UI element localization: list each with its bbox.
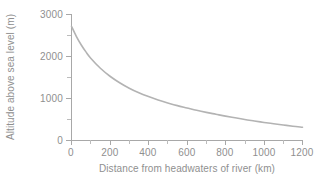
y-tick-label-2000: 2000 <box>40 51 63 62</box>
x-tick-label-1000: 1000 <box>252 147 275 158</box>
series-group <box>72 26 303 127</box>
x-tick-label-1200: 1200 <box>290 147 313 158</box>
x-tick-label-0: 0 <box>68 147 74 158</box>
y-tick-label-1000: 1000 <box>40 93 63 104</box>
river-profile-chart: 0 1000 2000 3000 0 200 400 600 800 1000 … <box>0 0 323 179</box>
x-tick-label-200: 200 <box>101 147 119 158</box>
y-tick-label-3000: 3000 <box>40 9 63 20</box>
river-profile-line <box>72 26 303 127</box>
x-axis-tick-labels: 0 200 400 600 800 1000 1200 <box>68 147 314 158</box>
chart-figure: 0 1000 2000 3000 0 200 400 600 800 1000 … <box>0 0 323 179</box>
y-axis-ticks <box>66 15 71 141</box>
x-tick-label-800: 800 <box>216 147 234 158</box>
axes-group <box>71 14 303 141</box>
x-tick-label-600: 600 <box>178 147 196 158</box>
y-axis-tick-labels: 0 1000 2000 3000 <box>40 9 63 146</box>
y-axis-title: Altitude above sea level (m) <box>5 14 16 140</box>
x-tick-label-400: 400 <box>139 147 157 158</box>
x-axis-title: Distance from headwaters of river (km) <box>99 163 275 174</box>
y-tick-label-0: 0 <box>57 135 63 146</box>
